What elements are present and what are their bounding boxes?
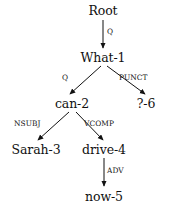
edge-label-q-1: Q [62, 74, 68, 82]
tree-node-what1: What-1 [81, 51, 126, 64]
tree-node-root: Root [88, 4, 117, 17]
tree-node-drive4: drive-4 [82, 143, 126, 156]
edge-can2-to-sarah3 [38, 112, 69, 140]
edge-label-q-0: Q [107, 28, 113, 36]
tree-node-can2: can-2 [55, 97, 89, 110]
edge-label-adv-5: ADV [107, 167, 124, 175]
dependency-tree-diagram: RootWhat-1can-2?-6Sarah-3drive-4now-5 QQ… [0, 0, 172, 212]
tree-node-q6: ?-6 [137, 97, 156, 110]
edge-label-punct-2: PUNCT [119, 74, 148, 82]
edge-label-vcomp-4: VCOMP [84, 120, 114, 128]
edge-label-nsubj-3: NSUBJ [14, 120, 41, 128]
tree-node-sarah3: Sarah-3 [12, 143, 61, 156]
tree-node-now5: now-5 [85, 190, 123, 203]
edge-what1-to-can2 [70, 66, 101, 94]
